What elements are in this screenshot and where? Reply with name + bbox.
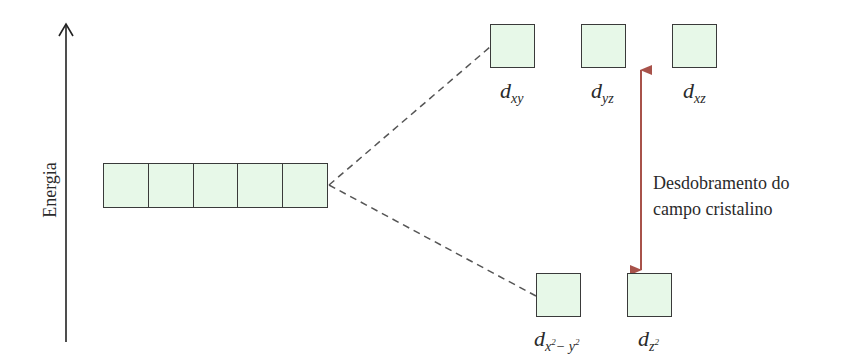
label-dxz: dxz [683, 80, 706, 106]
orbital-box-dyz [581, 24, 626, 68]
orbital-box-dz2 [627, 273, 672, 317]
orbital-box-dx2-y2 [536, 273, 581, 317]
dashed-connector-upper [329, 47, 490, 185]
label-dxy: dxy [500, 80, 523, 106]
orbital-box [238, 164, 283, 207]
splitting-caption: Desdobramento do campo cristalino [653, 170, 789, 222]
label-dz2: dz2 [638, 328, 659, 354]
degenerate-orbital-set [103, 163, 328, 208]
splitting-caption-line1: Desdobramento do [653, 170, 789, 196]
label-dx2-y2: dx2− y2 [534, 328, 579, 354]
label-dyz: dyz [591, 80, 614, 106]
orbital-box-dxy [490, 24, 535, 68]
orbital-box [194, 164, 239, 207]
dashed-connector-lower [329, 185, 536, 296]
orbital-box [104, 164, 149, 207]
orbital-box [283, 164, 327, 207]
splitting-caption-line2: campo cristalino [653, 196, 789, 222]
energy-axis-label: Energia [40, 162, 61, 218]
orbital-box [149, 164, 194, 207]
energy-axis [59, 24, 73, 342]
orbital-box-dxz [672, 24, 717, 68]
